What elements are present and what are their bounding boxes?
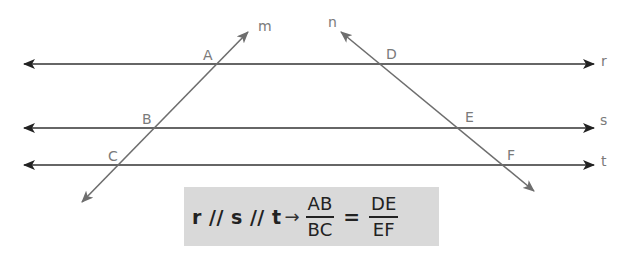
- equals-sign: =: [343, 205, 360, 229]
- label-m: m: [258, 18, 272, 34]
- formula-premise: r // s // t: [192, 206, 281, 228]
- point-E: E: [465, 109, 474, 125]
- fraction-denominator: BC: [308, 218, 333, 241]
- point-A: A: [203, 47, 213, 63]
- fraction-numerator: DE: [369, 193, 398, 218]
- formula-box: r // s // t → AB BC = DE EF: [184, 187, 439, 246]
- label-n: n: [328, 14, 337, 30]
- fraction-ab-bc: AB BC: [306, 193, 335, 241]
- point-F: F: [507, 147, 515, 163]
- implies-arrow-icon: →: [284, 206, 299, 227]
- label-t: t: [601, 153, 607, 169]
- label-r: r: [601, 53, 607, 69]
- fraction-de-ef: DE EF: [369, 193, 398, 241]
- point-C: C: [108, 148, 118, 164]
- transversal-n: [341, 32, 534, 191]
- point-D: D: [386, 46, 397, 62]
- transversal-m: [82, 32, 248, 202]
- fraction-denominator: EF: [373, 218, 395, 241]
- point-B: B: [142, 111, 152, 127]
- fraction-numerator: AB: [306, 193, 335, 218]
- label-s: s: [600, 112, 607, 128]
